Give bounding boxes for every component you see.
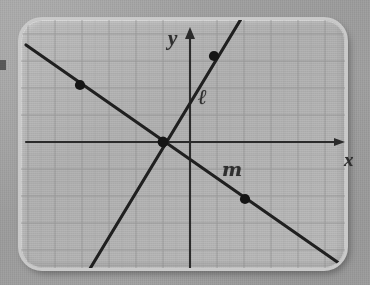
line-l-label: ℓ [198,86,207,107]
point-on-line-m-upper-left [75,80,85,90]
x-axis-label: x [344,150,354,169]
graph-svg [0,0,370,285]
point-intersection-origin [158,137,169,148]
point-on-line-l-upper-right [209,51,219,61]
x-axis [26,138,345,146]
x-axis-arrowhead [334,138,345,146]
point-on-line-m-lower-right [240,194,250,204]
figure-stage: y x ℓ m [0,0,370,285]
y-axis-label: y [168,28,177,49]
plot-area: y x ℓ m [0,0,370,285]
line-m [26,45,343,266]
grid-lines-minor [21,20,345,268]
grid-lines [21,20,345,268]
y-axis [185,27,195,268]
line-m-label: m [222,160,242,179]
y-axis-arrowhead [185,27,195,39]
